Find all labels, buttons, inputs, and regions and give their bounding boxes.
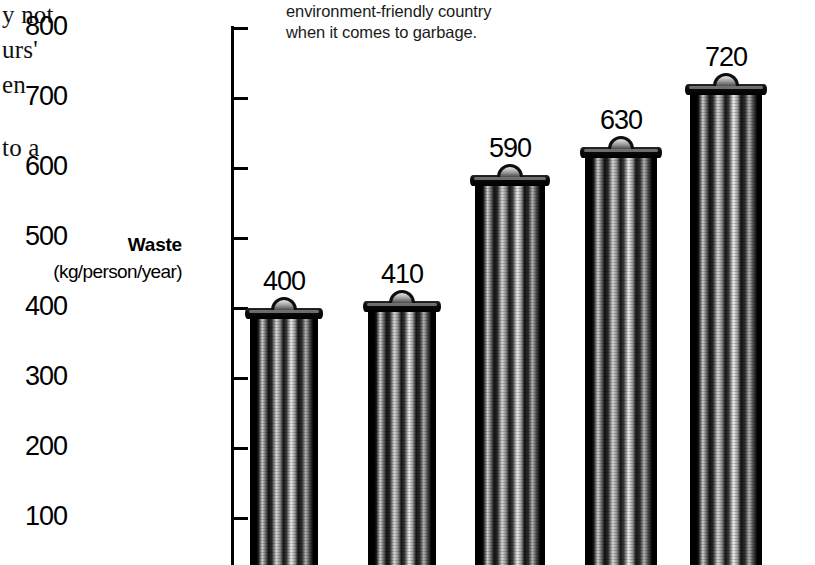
y-axis-tick-mark (234, 377, 248, 380)
bar-value-label: 630 (600, 105, 642, 136)
garbage-can-handle (608, 136, 634, 149)
y-axis-tick-mark (234, 447, 248, 450)
y-axis-tick-mark (234, 97, 248, 100)
y-axis-tick-mark (234, 237, 248, 240)
y-axis-tick-label: 800 (25, 11, 67, 42)
y-axis-tick-label: 300 (25, 361, 67, 392)
garbage-can-body (475, 185, 545, 565)
garbage-can-icon (475, 175, 545, 565)
y-axis-tick-label: 600 (25, 151, 67, 182)
y-axis-tick-mark (234, 167, 248, 170)
garbage-can-handle (713, 73, 739, 86)
y-axis-tick-label: 500 (25, 221, 67, 252)
bar-value-label: 400 (263, 266, 305, 297)
bar-garbage-can: 720 (690, 84, 762, 565)
y-axis-tick-mark (234, 27, 248, 30)
y-axis-line (231, 26, 234, 565)
garbage-can-icon (250, 308, 318, 565)
bar-value-label: 410 (381, 259, 423, 290)
y-axis-tick-label: 100 (25, 501, 67, 532)
garbage-can-handle (389, 290, 415, 303)
y-axis-tick-label: 400 (25, 291, 67, 322)
bar-garbage-can: 400 (250, 308, 318, 565)
waste-bar-chart: 800700600500400300200100 400410590630720 (0, 0, 815, 565)
garbage-can-icon (368, 301, 436, 565)
y-axis-tick-label: 200 (25, 431, 67, 462)
bar-garbage-can: 410 (368, 301, 436, 565)
garbage-can-body (368, 311, 436, 565)
garbage-can-body (585, 157, 657, 565)
garbage-can-body (690, 94, 762, 565)
y-axis-tick-mark (234, 517, 248, 520)
garbage-can-handle (497, 164, 523, 177)
bar-value-label: 590 (489, 133, 531, 164)
garbage-can-icon (585, 147, 657, 565)
garbage-can-body (250, 318, 318, 565)
bar-value-label: 720 (705, 42, 747, 73)
bar-garbage-can: 630 (585, 147, 657, 565)
garbage-can-handle (271, 297, 297, 310)
y-axis-tick-label: 700 (25, 81, 67, 112)
garbage-can-icon (690, 84, 762, 565)
bar-garbage-can: 590 (475, 175, 545, 565)
